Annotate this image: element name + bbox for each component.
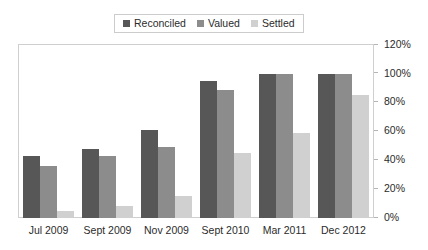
x-axis-tick-label: Nov 2009 xyxy=(137,224,196,236)
y-axis-tick-label: 0% xyxy=(384,211,399,222)
bar-reconciled xyxy=(23,156,40,218)
bar-group xyxy=(19,45,78,218)
y-axis-tick-mark xyxy=(374,217,378,218)
bar-settled xyxy=(293,133,310,218)
y-axis-tick-mark xyxy=(374,188,378,189)
bar-settled xyxy=(352,95,369,218)
bar-group xyxy=(314,45,373,218)
x-axis-tick-label: Mar 2011 xyxy=(255,224,314,236)
bar-valued xyxy=(335,74,352,218)
bar-reconciled xyxy=(141,130,158,218)
x-axis: Jul 2009Sept 2009Nov 2009Sept 2010Mar 20… xyxy=(19,224,373,236)
legend-label-reconciled: Reconciled xyxy=(134,18,186,29)
bar-settled xyxy=(57,211,74,218)
bar-valued xyxy=(276,74,293,218)
bar-group xyxy=(137,45,196,218)
plot-bars-area xyxy=(19,45,373,218)
x-axis-tick-label: Jul 2009 xyxy=(19,224,78,236)
legend-swatch-settled xyxy=(251,20,258,27)
bar-settled xyxy=(116,206,133,218)
y-axis-tick-label: 40% xyxy=(384,154,405,165)
bar-reconciled xyxy=(318,74,335,218)
legend-label-valued: Valued xyxy=(208,18,240,29)
y-axis-tick-mark xyxy=(374,130,378,131)
y-axis-tick-label: 100% xyxy=(384,67,411,78)
y-axis: 0%20%40%60%80%100%120% xyxy=(374,44,428,218)
chart-legend: Reconciled Valued Settled xyxy=(114,14,304,33)
y-axis-tick-label: 60% xyxy=(384,125,405,136)
bar-settled xyxy=(175,196,192,218)
bar-reconciled xyxy=(259,74,276,218)
y-axis-tick-label: 20% xyxy=(384,182,405,193)
x-axis-tick-label: Sept 2010 xyxy=(196,224,255,236)
bar-reconciled xyxy=(82,149,99,218)
y-axis-tick-mark xyxy=(374,159,378,160)
y-axis-tick-mark xyxy=(374,44,378,45)
legend-label-settled: Settled xyxy=(262,18,295,29)
x-axis-tick-label: Sept 2009 xyxy=(78,224,137,236)
bar-valued xyxy=(217,90,234,218)
y-axis-tick-label: 120% xyxy=(384,38,411,49)
legend-swatch-reconciled xyxy=(123,20,130,27)
y-axis-tick-mark xyxy=(374,101,378,102)
bar-valued xyxy=(158,147,175,218)
y-axis-tick-label: 80% xyxy=(384,96,405,107)
legend-item-settled: Settled xyxy=(251,18,295,29)
bar-valued xyxy=(40,166,57,218)
legend-item-valued: Valued xyxy=(197,18,240,29)
bar-chart: Reconciled Valued Settled 0%20%40%60%80%… xyxy=(0,0,428,250)
bar-settled xyxy=(234,153,251,218)
legend-item-reconciled: Reconciled xyxy=(123,18,186,29)
bar-reconciled xyxy=(200,81,217,218)
bar-valued xyxy=(99,156,116,218)
bar-group xyxy=(255,45,314,218)
bar-group xyxy=(78,45,137,218)
bar-group xyxy=(196,45,255,218)
legend-swatch-valued xyxy=(197,20,204,27)
y-axis-tick-mark xyxy=(374,72,378,73)
x-axis-tick-label: Dec 2012 xyxy=(314,224,373,236)
